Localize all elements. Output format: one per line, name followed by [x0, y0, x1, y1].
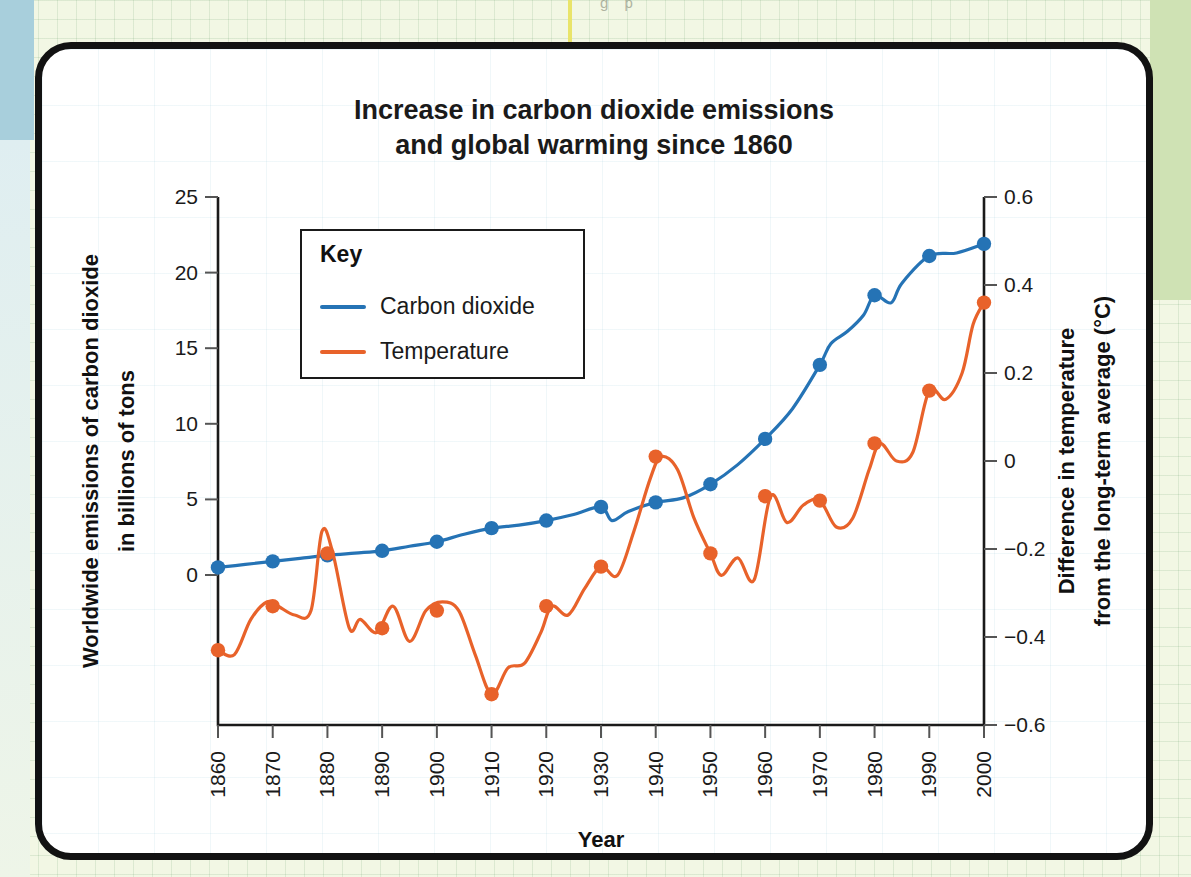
xtick-label: 2000 [972, 751, 995, 798]
xtick-label: 1880 [315, 751, 338, 798]
data-point-carbon-dioxide-1980 [867, 288, 881, 302]
data-point-temperature-1980 [867, 436, 881, 450]
data-point-temperature-2000 [977, 295, 991, 309]
xtick-label: 1910 [480, 751, 503, 798]
data-point-carbon-dioxide-1960 [758, 432, 772, 446]
data-point-temperature-1960 [758, 489, 772, 503]
y-axis-title-right-line-2: from the long-term average (°C) [1090, 296, 1115, 626]
ytick-label-left: 0 [186, 563, 198, 586]
data-point-carbon-dioxide-1870 [266, 554, 280, 568]
data-point-carbon-dioxide-1910 [484, 521, 498, 535]
data-point-temperature-1920 [539, 599, 553, 613]
data-point-carbon-dioxide-1890 [375, 544, 389, 558]
data-point-carbon-dioxide-1940 [649, 495, 663, 509]
ytick-label-right: 0 [1004, 449, 1016, 472]
xtick-label: 1980 [863, 751, 886, 798]
y-axis-title-right-line-1: Difference in temperature [1054, 328, 1079, 595]
chart-card: Increase in carbon dioxide emissions and… [35, 42, 1153, 860]
data-point-temperature-1970 [813, 493, 827, 507]
data-point-temperature-1880 [320, 546, 334, 560]
xtick-label: 1990 [917, 751, 940, 798]
data-point-temperature-1900 [430, 603, 444, 617]
xtick-label: 1930 [589, 751, 612, 798]
ytick-label-right: 0.6 [1004, 185, 1033, 208]
chart-legend: Key Carbon dioxide Temperature [300, 229, 585, 379]
data-point-temperature-1870 [266, 599, 280, 613]
data-point-carbon-dioxide-1860 [211, 560, 225, 574]
data-point-temperature-1930 [594, 559, 608, 573]
xtick-label: 1940 [644, 751, 667, 798]
legend-item-carbon-dioxide: Carbon dioxide [320, 293, 535, 320]
xtick-label: 1970 [808, 751, 831, 798]
legend-label-temperature: Temperature [380, 338, 509, 365]
page-green-edge [1150, 0, 1191, 300]
y-axis-title-left-line-2: in billions of tons [114, 370, 139, 552]
data-point-temperature-1890 [375, 621, 389, 635]
data-point-temperature-1910 [484, 687, 498, 701]
ytick-label-right: −0.4 [1004, 625, 1046, 648]
ytick-label-right: −0.6 [1004, 713, 1045, 736]
ytick-label-left: 15 [175, 336, 198, 359]
ytick-label-left: 20 [175, 261, 198, 284]
data-point-carbon-dioxide-1990 [922, 249, 936, 263]
legend-label-carbon-dioxide: Carbon dioxide [380, 293, 535, 320]
data-point-temperature-1990 [922, 383, 936, 397]
data-point-carbon-dioxide-1970 [813, 358, 827, 372]
xtick-label: 1950 [698, 751, 721, 798]
legend-swatch-temperature [320, 350, 366, 354]
ytick-label-left: 10 [175, 412, 198, 435]
x-axis-title: Year [578, 827, 625, 852]
data-point-temperature-1950 [703, 546, 717, 560]
xtick-label: 1860 [206, 751, 229, 798]
data-point-carbon-dioxide-2000 [977, 237, 991, 251]
legend-swatch-carbon-dioxide [320, 305, 366, 309]
ytick-label-left: 25 [175, 185, 198, 208]
page-cutoff-text: g p [600, 0, 920, 14]
data-point-carbon-dioxide-1920 [539, 513, 553, 527]
data-point-carbon-dioxide-1930 [594, 500, 608, 514]
xtick-label: 1960 [753, 751, 776, 798]
data-point-temperature-1860 [211, 643, 225, 657]
data-point-carbon-dioxide-1950 [703, 477, 717, 491]
xtick-label: 1920 [534, 751, 557, 798]
data-point-carbon-dioxide-1900 [430, 535, 444, 549]
legend-title: Key [320, 241, 362, 268]
ytick-label-left: 5 [186, 487, 198, 510]
ytick-label-right: −0.2 [1004, 537, 1045, 560]
data-point-temperature-1940 [649, 449, 663, 463]
page-left-blue-margin [0, 0, 34, 140]
legend-item-temperature: Temperature [320, 338, 509, 365]
ytick-label-right: 0.2 [1004, 361, 1033, 384]
xtick-label: 1900 [425, 751, 448, 798]
chart-plot: 0510152025−0.6−0.4−0.200.20.40.618601870… [42, 49, 1153, 860]
y-axis-title-left-line-1: Worldwide emissions of carbon dioxide [78, 254, 103, 668]
page-left-gradient [0, 140, 30, 877]
ytick-label-right: 0.4 [1004, 273, 1034, 296]
xtick-label: 1890 [370, 751, 393, 798]
xtick-label: 1870 [261, 751, 284, 798]
